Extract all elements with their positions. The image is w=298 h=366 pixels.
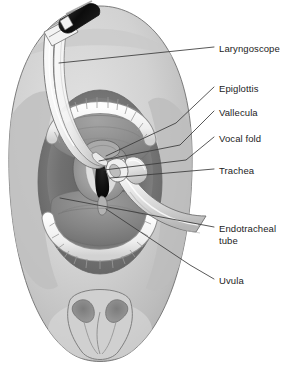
label-endotracheal-tube-line1: Endotracheal [219,223,276,235]
label-vallecula: Vallecula [219,107,258,119]
label-epiglottis: Epiglottis [219,83,259,95]
label-trachea-text: Trachea [219,165,254,176]
label-vallecula-text: Vallecula [219,107,258,118]
label-vocal-fold: Vocal fold [219,133,261,145]
illustration-canvas [0,0,298,366]
label-endotracheal-tube: Endotracheal tube [219,223,276,246]
label-laryngoscope-text: Laryngoscope [219,43,280,54]
label-uvula-text: Uvula [219,275,244,286]
label-laryngoscope: Laryngoscope [219,43,280,55]
label-vocal-fold-text: Vocal fold [219,133,261,144]
label-trachea: Trachea [219,165,254,177]
label-uvula: Uvula [219,275,244,287]
anatomical-figure: Laryngoscope Epiglottis Vallecula Vocal … [0,0,298,366]
label-epiglottis-text: Epiglottis [219,83,259,94]
label-endotracheal-tube-line2: tube [219,235,276,247]
